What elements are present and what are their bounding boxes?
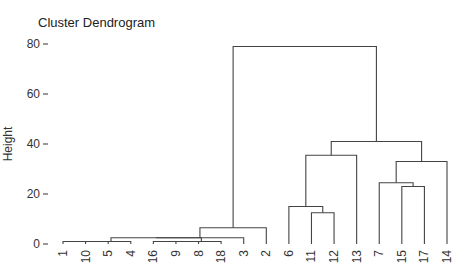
dendrogram-branch xyxy=(311,213,334,244)
leaf-label: 17 xyxy=(417,250,431,264)
leaf-label: 8 xyxy=(192,250,206,257)
leaf-label: 10 xyxy=(79,250,93,264)
dendrogram-branch xyxy=(233,47,376,228)
leaf-label: 4 xyxy=(124,250,138,257)
leaf-label: 6 xyxy=(282,250,296,257)
leaf-label: 16 xyxy=(146,250,160,264)
leaf-label: 12 xyxy=(327,250,341,264)
chart-title: Cluster Dendrogram xyxy=(38,15,155,30)
dendrogram-branch xyxy=(402,187,425,245)
y-tick-label: 0 xyxy=(33,237,40,251)
dendrogram-branch xyxy=(331,142,421,162)
leaf-label: 11 xyxy=(304,250,318,263)
y-tick-label: 40 xyxy=(27,137,41,151)
y-axis: 020406080 xyxy=(27,37,48,251)
leaf-label: 15 xyxy=(395,250,409,264)
leaf-label: 7 xyxy=(372,250,386,257)
y-tick-label: 20 xyxy=(27,187,41,201)
dendrogram-branch xyxy=(379,183,413,244)
leaf-label: 9 xyxy=(169,250,183,257)
dendrogram-branch xyxy=(306,155,357,244)
dendrogram-branch xyxy=(111,238,201,242)
leaf-labels: 110541698183261112137151714 xyxy=(56,250,454,264)
dendrogram-branch xyxy=(91,242,131,245)
leaf-label: 13 xyxy=(350,250,364,264)
dendrogram-edges xyxy=(63,47,447,245)
leaf-label: 5 xyxy=(101,250,115,257)
dendrogram-branch xyxy=(396,162,447,245)
leaf-label: 3 xyxy=(237,250,251,257)
leaf-label: 18 xyxy=(214,250,228,264)
dendrogram-branch xyxy=(289,207,323,245)
dendrogram-branch xyxy=(156,238,244,244)
leaf-label: 2 xyxy=(259,250,273,257)
leaf-label: 14 xyxy=(440,250,454,264)
y-tick-label: 80 xyxy=(27,37,41,51)
dendrogram-branch xyxy=(182,242,222,245)
leaf-label: 1 xyxy=(56,250,70,257)
y-tick-label: 60 xyxy=(27,87,41,101)
y-axis-label: Height xyxy=(1,126,15,161)
dendrogram-chart: Cluster Dendrogram 020406080 Height 1105… xyxy=(0,0,466,272)
